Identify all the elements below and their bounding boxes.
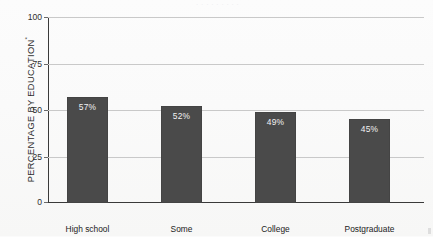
bar-value-label: 52% [161,111,202,121]
tick-mark-25 [44,157,48,158]
bar-some-college[interactable]: 52% [161,106,202,203]
y-tick-label-75: 75 [32,59,42,69]
bar-postgraduate-work[interactable]: 45% [349,119,390,203]
gridline-100: 100 [48,17,424,18]
x-category-line-1: College [224,224,328,235]
bar-college-degree[interactable]: 49% [255,112,296,203]
bar-value-label: 45% [349,124,390,134]
plot-area: 100 75 50 25 0 57% 52% 49% 45% [48,17,424,203]
bar-high-school-or-less[interactable]: 57% [67,97,108,203]
x-category-label-high-school-or-less: High school or less [36,224,140,236]
background-bleed-text: · · · · · · · · · [196,1,239,8]
page-edge-mark [428,228,431,234]
x-category-line-2: or less [36,235,140,237]
y-tick-label-25: 25 [32,152,42,162]
x-category-line-1: Some [130,224,234,235]
tick-mark-75 [44,64,48,65]
x-category-line-1: Postgraduate [318,224,422,235]
x-category-label-postgraduate-work: Postgraduate work [318,224,422,236]
x-category-line-2: degree [224,235,328,237]
tick-mark-50 [44,110,48,111]
bar-chart: · · · · · · · · · PERCENTAGE BY EDUCATIO… [0,0,433,236]
x-category-label-college-degree: College degree [224,224,328,236]
y-axis-footnote-marker: * [24,37,30,40]
y-tick-label-0: 0 [37,197,42,207]
tick-mark-100 [44,17,48,18]
x-category-line-2: work [318,235,422,237]
x-category-line-1: High school [36,224,140,235]
x-category-line-2: college [130,235,234,237]
tick-mark-0 [44,202,48,203]
y-tick-label-50: 50 [32,105,42,115]
y-tick-label-100: 100 [28,12,42,22]
gridline-75: 75 [48,64,424,65]
bar-value-label: 57% [67,102,108,112]
bar-value-label: 49% [255,117,296,127]
x-category-label-some-college: Some college [130,224,234,236]
